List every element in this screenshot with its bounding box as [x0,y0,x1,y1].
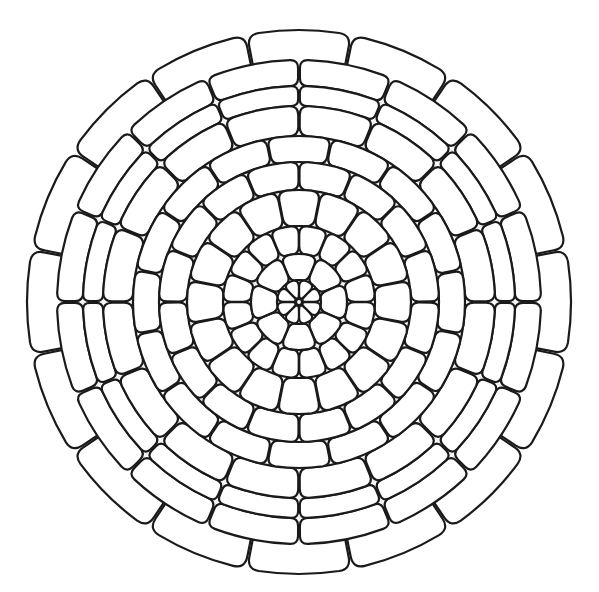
mandala-cell [375,282,411,322]
mandala-cell [187,282,223,322]
mandala-cell [133,272,160,333]
mandala-cell [279,378,319,414]
mandala-cell [269,136,330,163]
mandala-cell [438,272,465,333]
mandala-canvas [0,0,599,592]
mandala-cell [279,190,319,226]
center-dot [296,299,302,305]
mandala-cell [269,441,330,468]
